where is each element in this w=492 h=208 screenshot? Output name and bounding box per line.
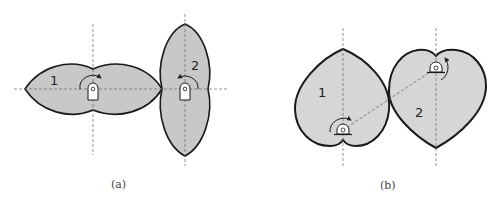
gear-1-label-b: 1	[318, 85, 326, 100]
pivot-icon	[88, 83, 98, 100]
caption-a: (a)	[111, 178, 126, 191]
pivot-icon	[180, 83, 190, 100]
panel-b: 1 2 (b)	[295, 28, 486, 192]
caption-b: (b)	[380, 179, 396, 192]
gear-2-label-b: 2	[415, 105, 423, 120]
gear-1-label-a: 1	[50, 73, 58, 88]
gear-2-label-a: 2	[191, 58, 199, 73]
panel-a: 1 2 (a)	[14, 14, 228, 191]
figure-canvas: 1 2 (a) 1 2 (b)	[0, 0, 492, 208]
